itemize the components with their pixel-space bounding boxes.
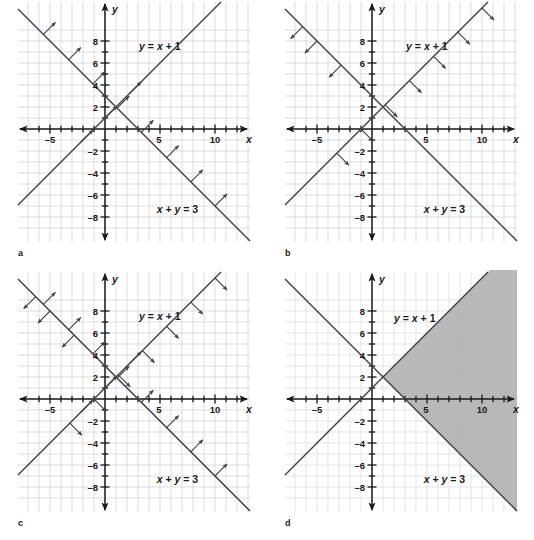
panel-letter-c: c [18, 518, 23, 528]
x-tick-label-5: 5 [156, 134, 162, 145]
y-axis-name: y [111, 3, 119, 15]
y-axis-name: y [111, 273, 119, 285]
x-axis-name: x [512, 133, 520, 145]
x-tick-label--5: –5 [45, 134, 56, 145]
y-tick-label--2: –2 [87, 416, 98, 427]
y-tick-label-2: 2 [93, 372, 98, 383]
panel-letter-b: b [285, 248, 291, 258]
equation-label-line2: x + y = 3 [156, 473, 199, 485]
y-tick-label--4: –4 [87, 438, 98, 449]
y-tick-label--8: –8 [87, 482, 98, 493]
panel-letter-a: a [18, 248, 23, 258]
y-tick-label-8: 8 [93, 36, 98, 47]
y-tick-label-6: 6 [93, 58, 98, 69]
y-tick-label--8: –8 [354, 212, 365, 223]
y-tick-label--8: –8 [87, 212, 98, 223]
y-tick-label-2: 2 [360, 372, 365, 383]
y-tick-label--2: –2 [354, 146, 365, 157]
panel-d: –55108642–2–4–6–8xyy = x + 1x + y = 3d [267, 270, 534, 540]
y-tick-label-2: 2 [93, 102, 98, 113]
y-tick-label--2: –2 [354, 416, 365, 427]
x-tick-label-10: 10 [210, 134, 221, 145]
figure-root: –55108642–2–4–6–8xyy = x + 1x + y = 3a–5… [0, 0, 534, 540]
y-tick-label-8: 8 [360, 36, 365, 47]
y-axis-name: y [378, 273, 386, 285]
y-tick-label--6: –6 [87, 190, 98, 201]
y-tick-label--6: –6 [354, 460, 365, 471]
x-axis-name: x [245, 403, 253, 415]
equation-label-line1: y = x + 1 [138, 310, 181, 322]
y-tick-label-8: 8 [360, 306, 365, 317]
x-tick-label--5: –5 [45, 404, 56, 415]
x-tick-label--5: –5 [312, 134, 323, 145]
equation-label-line2: x + y = 3 [423, 203, 466, 215]
equation-label-line2: x + y = 3 [156, 203, 199, 215]
panel-b: –55108642–2–4–6–8xyy = x + 1x + y = 3b [267, 0, 534, 270]
panel-c: –55108642–2–4–6–8xyy = x + 1x + y = 3c [0, 270, 267, 540]
equation-label-line1: y = x + 1 [138, 40, 181, 52]
x-tick-label-5: 5 [423, 404, 429, 415]
y-tick-label-4: 4 [360, 350, 366, 361]
y-tick-label--2: –2 [87, 146, 98, 157]
equation-label-line1: y = x + 1 [393, 312, 436, 324]
y-tick-label--4: –4 [354, 438, 365, 449]
x-tick-label-10: 10 [477, 404, 488, 415]
x-tick-label-10: 10 [210, 404, 221, 415]
x-tick-label-10: 10 [477, 134, 488, 145]
y-tick-label-6: 6 [360, 58, 365, 69]
y-tick-label--4: –4 [354, 168, 365, 179]
x-tick-label-5: 5 [156, 404, 162, 415]
equation-label-line1: y = x + 1 [405, 40, 448, 52]
y-tick-label-4: 4 [360, 80, 366, 91]
y-tick-label-2: 2 [360, 102, 365, 113]
y-axis-name: y [378, 3, 386, 15]
y-tick-label-6: 6 [360, 328, 365, 339]
y-tick-label-6: 6 [93, 328, 98, 339]
y-tick-label--6: –6 [354, 190, 365, 201]
y-tick-label--8: –8 [354, 482, 365, 493]
panel-letter-d: d [285, 518, 291, 528]
y-tick-label--4: –4 [87, 168, 98, 179]
x-tick-label--5: –5 [312, 404, 323, 415]
y-tick-label--6: –6 [87, 460, 98, 471]
y-tick-label-8: 8 [93, 306, 98, 317]
panel-a: –55108642–2–4–6–8xyy = x + 1x + y = 3a [0, 0, 267, 270]
x-axis-name: x [245, 133, 253, 145]
x-tick-label-5: 5 [423, 134, 429, 145]
equation-label-line2: x + y = 3 [423, 473, 466, 485]
x-axis-name: x [512, 403, 520, 415]
